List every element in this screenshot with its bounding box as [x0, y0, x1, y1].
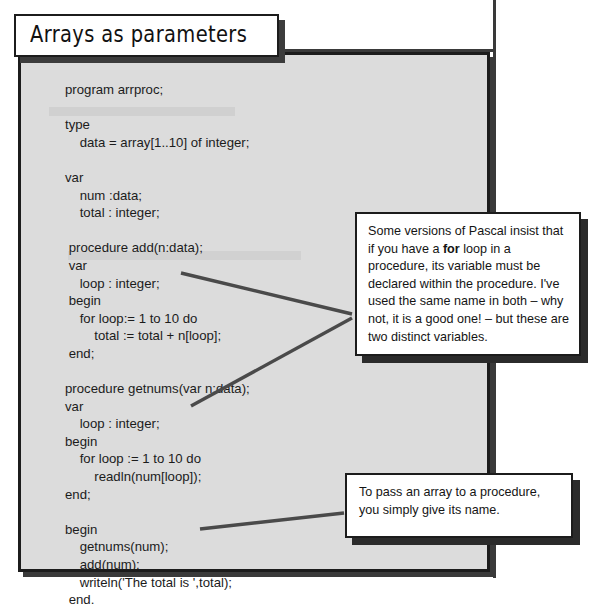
page-canvas: program arrproc; type data = array[1..10…	[0, 0, 598, 605]
callout-pascal-note: Some versions of Pascal insist that if y…	[355, 212, 581, 356]
page-edge-rule-top	[493, 0, 496, 214]
code-line: num :data;	[65, 187, 479, 205]
code-line-blank	[65, 363, 479, 381]
page-title: Arrays as parameters	[30, 20, 247, 49]
callout-array-note: To pass an array to a procedure, you sim…	[345, 473, 573, 538]
code-line: type	[65, 116, 479, 134]
code-line: data = array[1..10] of integer;	[65, 134, 479, 152]
code-line: procedure getnums(var n:data);	[65, 380, 479, 398]
callout-pascal-text-part2: loop in a procedure, its variable must b…	[368, 242, 569, 344]
code-line: begin	[65, 433, 479, 451]
page-edge-rule-middle	[493, 356, 496, 474]
code-line: for loop := 1 to 10 do	[65, 450, 479, 468]
code-line: writeln('The total is ',total);	[65, 574, 479, 592]
page-edge-rule-bottom	[493, 538, 496, 578]
callout-array-text: To pass an array to a procedure, you sim…	[359, 484, 561, 519]
code-line-blank	[65, 99, 479, 117]
code-line: var	[65, 398, 479, 416]
code-line: getnums(num);	[65, 538, 479, 556]
section-title-box: Arrays as parameters	[14, 14, 279, 57]
callout-pascal-text: Some versions of Pascal insist that if y…	[368, 223, 569, 346]
code-line-blank	[65, 151, 479, 169]
code-line: loop : integer;	[65, 415, 479, 433]
code-line: add(num);	[65, 556, 479, 574]
code-line: var	[65, 169, 479, 187]
callout-pascal-bold-keyword: for	[443, 242, 460, 256]
code-line: program arrproc;	[65, 81, 479, 99]
code-line: end.	[65, 591, 479, 605]
